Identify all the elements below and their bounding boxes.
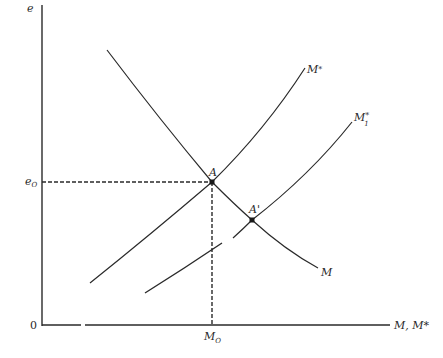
point-a-prime-label: A' <box>248 203 260 216</box>
m0-label: MO <box>203 330 221 345</box>
point-a-marker <box>210 180 215 185</box>
diagram: e 0 M, M* eO MO M M* M*1 A A' <box>0 0 443 358</box>
y-axis-label: e <box>27 2 34 15</box>
point-a-prime-marker <box>250 218 255 223</box>
e0-label: eO <box>25 175 38 189</box>
m1-star-curve-lower <box>145 243 222 293</box>
m1-star-curve-label: M*1 <box>353 111 369 128</box>
m-curve-label: M <box>320 266 333 279</box>
x-axis-label: M, M* <box>393 319 430 332</box>
m-star-curve-label: M* <box>306 63 322 76</box>
m-curve <box>107 50 318 268</box>
origin-label: 0 <box>30 319 37 332</box>
m-star-curve <box>90 68 305 283</box>
point-a-label: A <box>208 166 217 179</box>
